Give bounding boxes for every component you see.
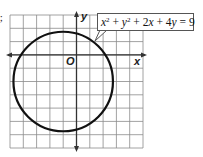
eq-plus-2: + 2: [130, 16, 148, 28]
equation-callout: x2 + y2 + 2x + 4y = 9: [97, 13, 194, 31]
x-axis-label: x: [134, 55, 140, 67]
eq-plus-1: +: [110, 16, 122, 28]
y-axis-arrow-up-icon: [74, 11, 79, 17]
x-axis-arrow-right-icon: [141, 52, 147, 57]
eq-equals: = 9: [177, 16, 195, 28]
eq-plus-3: + 4: [154, 16, 172, 28]
x-axis-arrow-left-icon: [6, 52, 12, 57]
y-axis-label: y: [81, 10, 87, 22]
callout-pointer: [95, 30, 107, 41]
y-axis-arrow-down-icon: [74, 146, 79, 152]
origin-label: O: [66, 55, 75, 67]
